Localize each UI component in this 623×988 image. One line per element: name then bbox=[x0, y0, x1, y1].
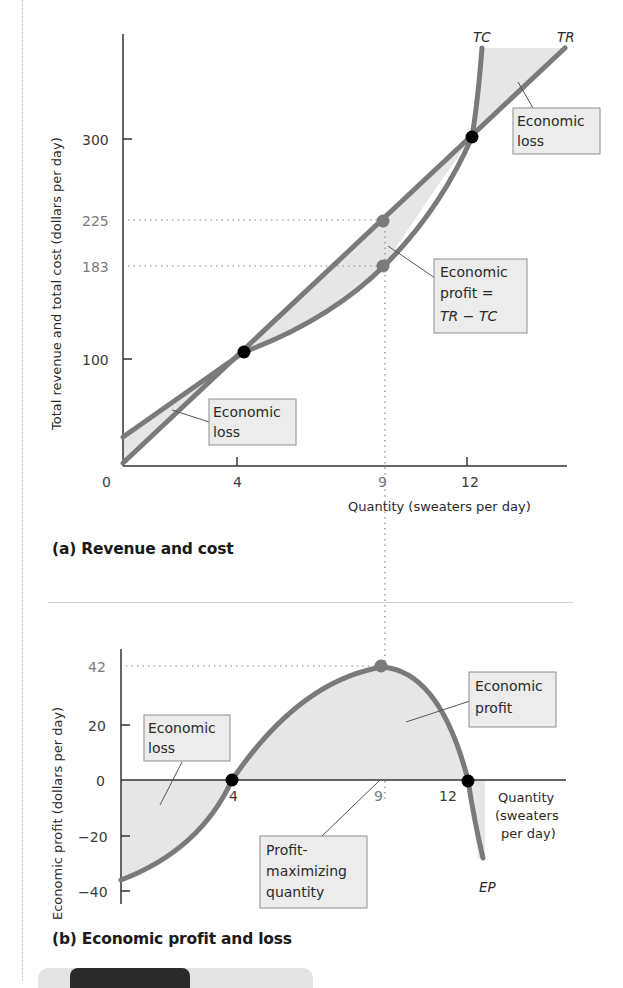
xtick-b-label-4: 4 bbox=[229, 788, 238, 804]
chart-b: 42 20 0 −20 −40 4 9 12 Economic profit (… bbox=[50, 649, 566, 920]
point-tc-183 bbox=[377, 260, 390, 273]
profit-region-b bbox=[232, 667, 468, 780]
xtick-label-12: 12 bbox=[461, 474, 479, 490]
x-axis-label-a: Quantity (sweaters per day) bbox=[348, 499, 531, 514]
y-axis-label-a: Total revenue and total cost (dollars pe… bbox=[49, 137, 64, 431]
point-b-q12 bbox=[462, 775, 475, 788]
x-axis-label-b-line1: Quantity bbox=[498, 790, 554, 805]
point-b-max bbox=[375, 660, 388, 673]
ep-label: EP bbox=[479, 879, 497, 895]
tr-curve bbox=[123, 48, 565, 463]
ytick-label-225: 225 bbox=[82, 213, 109, 229]
annotation-b-profit-line1: Economic bbox=[475, 678, 543, 694]
ytick-b-label-0: 0 bbox=[96, 773, 105, 789]
ytick-b-label-42: 42 bbox=[88, 659, 106, 675]
annotation-profit-line2: profit = bbox=[440, 285, 493, 301]
leader-loss-bottom bbox=[172, 410, 209, 422]
tr-label: TR bbox=[557, 29, 575, 45]
xtick-b-label-9: 9 bbox=[374, 788, 383, 804]
x-axis-label-b-line2: (sweaters bbox=[495, 808, 559, 823]
point-b-q4 bbox=[226, 774, 239, 787]
annotation-profit-line3: TR − TC bbox=[440, 308, 497, 324]
ytick-b-label-20: 20 bbox=[88, 718, 106, 734]
tc-label: TC bbox=[473, 29, 491, 45]
annotation-b-profit-line2: profit bbox=[475, 700, 513, 716]
annotation-loss-bottom-line2: loss bbox=[213, 424, 240, 440]
annotation-b-loss-line2: loss bbox=[148, 740, 175, 756]
point-q12-breakeven bbox=[466, 131, 479, 144]
annotation-b-pmq-line1: Profit- bbox=[266, 842, 308, 858]
annotation-b-pmq-line3: quantity bbox=[266, 884, 324, 900]
tc-curve bbox=[123, 48, 482, 437]
leader-b-pmq bbox=[322, 781, 379, 836]
annotation-loss-top-line2: loss bbox=[517, 133, 544, 149]
panel-divider bbox=[48, 602, 573, 603]
ytick-label-183: 183 bbox=[82, 259, 109, 275]
annotation-loss-bottom-line1: Economic bbox=[213, 404, 281, 420]
loss-region-b-left bbox=[121, 780, 232, 880]
panel-b-title: (b) Economic profit and loss bbox=[52, 930, 292, 948]
leader-profit bbox=[388, 246, 435, 278]
xtick-label-4: 4 bbox=[233, 474, 242, 490]
ytick-b-label-neg20: −20 bbox=[78, 829, 108, 845]
point-tr-225 bbox=[377, 215, 390, 228]
panel-a-title: (a) Revenue and cost bbox=[52, 540, 234, 558]
bottom-tab-dark bbox=[70, 968, 190, 988]
y-axis-label-b: Economic profit (dollars per day) bbox=[50, 707, 65, 920]
ytick-b-label-neg40: −40 bbox=[78, 884, 108, 900]
xtick-b-label-12: 12 bbox=[439, 788, 457, 804]
point-q4-breakeven bbox=[238, 346, 251, 359]
x-axis-label-b-line3: per day) bbox=[501, 826, 556, 841]
ytick-label-300: 300 bbox=[82, 132, 109, 148]
ytick-label-100: 100 bbox=[82, 352, 109, 368]
origin-label: 0 bbox=[102, 474, 111, 490]
annotation-profit-line1: Economic bbox=[440, 264, 508, 280]
annotation-b-pmq-line2: maximizing bbox=[266, 863, 347, 879]
annotation-loss-top-line1: Economic bbox=[517, 113, 585, 129]
annotation-b-loss-line1: Economic bbox=[148, 720, 216, 736]
xtick-label-9: 9 bbox=[378, 474, 387, 490]
